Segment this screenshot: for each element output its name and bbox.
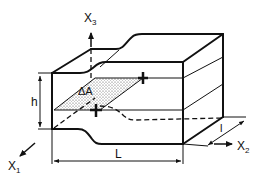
block-diagram (0, 0, 259, 184)
area-label: ΔA (78, 86, 93, 97)
x2-base: X (237, 139, 245, 153)
x3-sub: 3 (92, 18, 96, 27)
bottom-right-edge (183, 117, 223, 144)
marker-cross-right (138, 72, 148, 84)
x1-axis-label: X1 (8, 160, 20, 175)
top-face-line (100, 50, 119, 67)
x1-base: X (8, 159, 16, 173)
section-front-right-line (183, 84, 223, 110)
length-label: L (115, 148, 122, 160)
l-ext-front (183, 144, 208, 146)
top-right-edge (183, 34, 223, 62)
front-top-edge (52, 62, 183, 73)
x2-sub: 2 (245, 146, 249, 155)
x3-base: X (84, 11, 92, 25)
width-label: l (220, 123, 222, 134)
height-label: h (31, 96, 38, 108)
x3-axis-label: X3 (84, 12, 96, 27)
area-element-shading (54, 78, 143, 110)
x1-axis-arrow (20, 143, 35, 156)
section-right-line (183, 57, 223, 78)
x1-sub: 1 (16, 166, 20, 175)
hidden-bottom-back-edge (100, 106, 223, 120)
front-bottom-edge (52, 129, 183, 144)
x2-axis-label: X2 (237, 140, 249, 155)
top-left-edge (52, 49, 91, 73)
